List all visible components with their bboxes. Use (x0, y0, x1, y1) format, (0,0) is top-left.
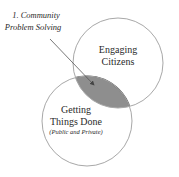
getting-things-done-label-line-2: Things Done (50, 116, 103, 127)
overlap-label-line-1: 1. Community (12, 10, 60, 20)
engaging-citizens-label-line-1: Engaging (99, 44, 137, 55)
venn-diagram: 1. Community Problem Solving Engaging Ci… (0, 0, 179, 177)
overlap-label-line-2: Problem Solving (4, 22, 62, 32)
getting-things-done-sublabel: (Public and Private) (49, 128, 102, 136)
engaging-citizens-label-line-2: Citizens (102, 56, 135, 67)
getting-things-done-label-line-1: Getting (61, 104, 91, 115)
